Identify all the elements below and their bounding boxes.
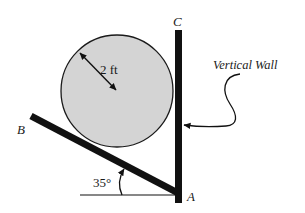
label-point-c: C xyxy=(173,14,182,29)
label-point-a: A xyxy=(186,189,195,204)
cylinder xyxy=(61,35,173,147)
label-point-b: B xyxy=(17,122,25,137)
label-vertical-wall: Vertical Wall xyxy=(213,58,278,72)
diagram-canvas: C B A 2 ft 35° Vertical Wall xyxy=(0,0,305,213)
wall-leader-arrow xyxy=(184,74,240,127)
angle-arc-arrow xyxy=(120,169,124,195)
vertical-wall xyxy=(175,30,182,203)
label-radius: 2 ft xyxy=(100,62,118,77)
label-angle: 35° xyxy=(93,175,111,190)
